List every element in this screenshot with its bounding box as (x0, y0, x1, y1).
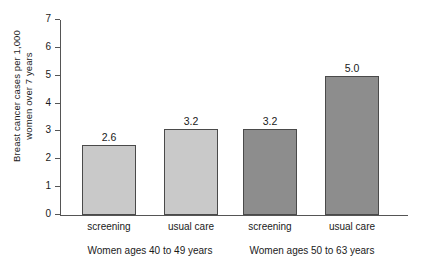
y-axis-tick-0: 0 (55, 214, 60, 215)
y-axis-tick-label-1: 1 (29, 179, 51, 192)
y-axis-tick-label-6: 6 (29, 40, 51, 53)
x-axis-line (60, 215, 408, 216)
bar-3: 3.2 (243, 129, 297, 215)
y-axis-tick-label-2: 2 (29, 151, 51, 164)
y-axis-line (60, 20, 61, 216)
y-axis-tick-label-3: 3 (29, 123, 51, 136)
y-axis-tick-label-4: 4 (29, 96, 51, 109)
y-axis-tick-2: 2 (55, 158, 60, 159)
y-axis-tick-3: 3 (55, 130, 60, 131)
bar-2: 3.2 (164, 129, 218, 215)
y-axis-tick-label-7: 7 (29, 12, 51, 25)
bar-value-label-3: 3.2 (263, 115, 278, 127)
bar-chart-figure: Breast cancer cases per 1,000 women over… (0, 0, 424, 270)
plot-area: 01234567 2.63.23.25.0 screeningusual car… (60, 20, 408, 216)
y-axis-tick-5: 5 (55, 75, 60, 76)
bar-4: 5.0 (325, 76, 379, 215)
category-label-4: usual care (311, 220, 393, 233)
group-label-2: Women ages 50 to 63 years (232, 244, 392, 257)
category-label-1: screening (68, 220, 150, 233)
group-label-1: Women ages 40 to 49 years (70, 244, 230, 257)
y-axis-tick-1: 1 (55, 186, 60, 187)
y-axis-tick-4: 4 (55, 103, 60, 104)
bar-value-label-1: 2.6 (102, 131, 117, 143)
y-axis-tick-label-0: 0 (29, 207, 51, 220)
y-axis-title-line-1: Breast cancer cases per 1,000 (11, 1, 23, 191)
bar-value-label-2: 3.2 (184, 115, 199, 127)
category-label-3: screening (229, 220, 311, 233)
y-axis-tick-6: 6 (55, 47, 60, 48)
y-axis-tick-label-5: 5 (29, 68, 51, 81)
y-axis-tick-7: 7 (55, 19, 60, 20)
bar-value-label-4: 5.0 (345, 62, 360, 74)
category-label-2: usual care (150, 220, 232, 233)
bar-1: 2.6 (82, 145, 136, 215)
